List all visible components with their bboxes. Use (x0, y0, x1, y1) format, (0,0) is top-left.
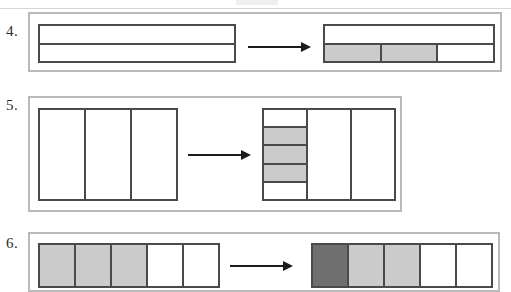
cell-shaded-dark (313, 245, 347, 286)
cell-subdivided (325, 43, 493, 62)
cell (419, 245, 455, 286)
problem-6-right-shape (311, 243, 493, 288)
cell-shaded (347, 245, 383, 286)
cell (84, 110, 130, 199)
arrow-shaft (188, 154, 242, 156)
cell (455, 245, 491, 286)
problem-4-right-shape (323, 24, 495, 63)
scan-artifact-line (0, 8, 511, 9)
cell (306, 110, 350, 199)
cell (40, 26, 234, 43)
subcell-shaded (325, 45, 380, 62)
arrow-head-icon (283, 261, 293, 271)
problem-4-arrow (248, 42, 311, 52)
subdivision (325, 45, 493, 62)
cell (40, 43, 234, 62)
cell (182, 245, 218, 286)
scan-artifact-smudge (236, 0, 278, 5)
cell (146, 245, 182, 286)
subcell (436, 45, 493, 62)
problem-4-left-shape (38, 24, 236, 63)
cell-shaded (74, 245, 110, 286)
problem-4-frame (28, 12, 502, 72)
problem-6-arrow (230, 261, 293, 271)
problem-6-left-shape (38, 243, 220, 288)
problem-number-4: 4. (6, 24, 18, 39)
problem-5-left-shape (38, 108, 178, 201)
arrow-shaft (248, 46, 302, 48)
cell-shaded (383, 245, 419, 286)
subcell (264, 181, 306, 199)
problem-6-frame (28, 232, 500, 292)
problem-number-6: 6. (6, 236, 18, 251)
subcell-shaded (264, 126, 306, 144)
cell-shaded (40, 245, 74, 286)
arrow-head-icon (241, 150, 251, 160)
cell (40, 110, 84, 199)
subcell-shaded (380, 45, 437, 62)
problem-5-arrow (188, 150, 251, 160)
problem-number-5: 5. (6, 98, 18, 113)
problem-5-frame (28, 96, 402, 212)
arrow-head-icon (301, 42, 311, 52)
arrow-shaft (230, 265, 284, 267)
subdivision (264, 110, 306, 199)
cell-shaded (110, 245, 146, 286)
cell-subdivided (264, 110, 306, 199)
subcell (264, 110, 306, 126)
cell (130, 110, 176, 199)
cell (325, 26, 493, 43)
cell (350, 110, 394, 199)
subcell-shaded (264, 144, 306, 162)
subcell-shaded (264, 163, 306, 181)
problem-5-right-shape (262, 108, 396, 201)
